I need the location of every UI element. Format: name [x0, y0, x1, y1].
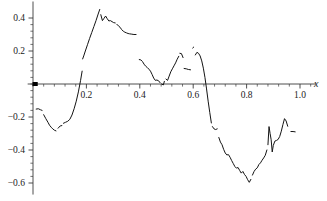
- segment-12: [184, 68, 190, 69]
- segment-14: [195, 52, 211, 123]
- segment-13: [193, 47, 194, 48]
- segment-16: [219, 137, 251, 182]
- segment-17: [252, 150, 266, 175]
- y-tick-label: −0.2: [8, 112, 25, 122]
- plot-canvas: 0.20.40.60.81.00.40.2−0.2−0.4−0.6 x: [0, 0, 327, 201]
- segment-18: [268, 119, 288, 152]
- x-tick-label: 0.2: [80, 90, 92, 100]
- segment-10: [166, 56, 179, 80]
- x-tick-label: 0.8: [241, 90, 253, 100]
- y-tick-label: −0.6: [8, 178, 25, 188]
- segment-7: [117, 24, 136, 34]
- segment-5: [83, 9, 100, 59]
- x-tick-label: 0.6: [187, 90, 199, 100]
- segment-9: [162, 81, 165, 85]
- axes-group: [28, 2, 316, 195]
- segment-2: [44, 115, 56, 131]
- chart-figure: 0.20.40.60.81.00.40.2−0.2−0.4−0.6 x: [0, 0, 327, 201]
- y-tick-label: 0.4: [13, 13, 25, 23]
- markers-group: [33, 82, 38, 86]
- x-tick-label: 0.4: [134, 90, 146, 100]
- x-axis-label: x: [313, 78, 319, 89]
- y-tick-label: −0.4: [8, 145, 25, 155]
- data-series-group: [36, 9, 295, 182]
- segment-11: [180, 53, 183, 57]
- x-tick-label: 1.0: [294, 90, 306, 100]
- y-tick-label: 0.2: [13, 46, 25, 56]
- segment-3: [58, 126, 62, 129]
- segment-8: [139, 60, 160, 83]
- segment-6: [101, 15, 115, 23]
- origin-marker: [33, 82, 38, 86]
- segment-1: [36, 109, 42, 111]
- segment-4: [63, 71, 82, 123]
- segment-15: [212, 127, 217, 130]
